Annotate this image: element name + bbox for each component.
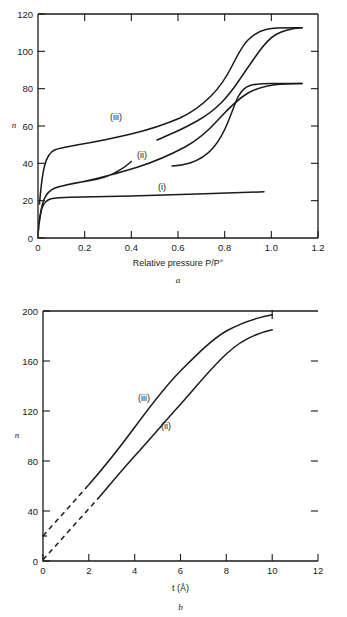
- panel-b-t-plots: 0 40 80 120 160 200 0 2 4 6 8 10 12 n t …: [0, 288, 347, 617]
- x-tick-label: 0.2: [78, 242, 91, 253]
- panel-a-x-ticks: [38, 14, 318, 238]
- x-tick-label: 10: [267, 565, 278, 576]
- y-tick-label: 80: [27, 456, 38, 467]
- x-tick-label: 4: [132, 565, 137, 576]
- panel-b-x-ticks: [43, 554, 318, 561]
- curve-ii-tplot: [98, 330, 272, 499]
- panel-a-y-ticks: [38, 14, 318, 238]
- x-tick-label: 8: [224, 565, 229, 576]
- panel-b-plot: 0 40 80 120 160 200 0 2 4 6 8 10 12 n t …: [0, 288, 347, 617]
- x-tick-label: 0.8: [218, 242, 231, 253]
- panel-a-plot: 0 20 40 60 80 100 120 0 0.2 0.4 0.6 0.8 …: [0, 0, 347, 288]
- y-tick-label: 160: [22, 356, 38, 367]
- curve-ii-extrapolation: [43, 499, 98, 560]
- y-tick-label: 60: [22, 121, 33, 132]
- panel-b-y-axis-title: n: [15, 430, 20, 440]
- panel-a-axes: [38, 14, 318, 238]
- y-tick-label: 0: [28, 233, 33, 244]
- y-tick-label: 40: [22, 158, 33, 169]
- y-tick-label: 20: [22, 195, 33, 206]
- panel-a-y-tick-labels: 0 20 40 60 80 100 120: [17, 9, 33, 244]
- y-tick-label: 120: [17, 9, 33, 20]
- x-tick-label: 0: [35, 242, 40, 253]
- panel-a-adsorption-isotherms: 0 20 40 60 80 100 120 0 0.2 0.4 0.6 0.8 …: [0, 0, 347, 288]
- panel-a-annotation-ii: (ii): [137, 150, 147, 160]
- y-tick-label: 100: [17, 46, 33, 57]
- panel-b-y-tick-labels: 0 40 80 120 160 200: [22, 306, 38, 567]
- panel-b-axes: [43, 311, 318, 561]
- curve-ii-adsorption: [39, 84, 302, 224]
- figure-container: 0 20 40 60 80 100 120 0 0.2 0.4 0.6 0.8 …: [0, 0, 347, 617]
- x-tick-label: 6: [178, 565, 183, 576]
- x-tick-label: 1.2: [311, 242, 324, 253]
- y-tick-label: 80: [22, 83, 33, 94]
- panel-b-letter: b: [178, 602, 183, 612]
- panel-a-annotation-iii: (iii): [110, 112, 122, 122]
- panel-a-x-tick-labels: 0 0.2 0.4 0.6 0.8 1.0 1.2: [35, 242, 324, 253]
- panel-b-annotation-iii: (iii): [138, 393, 150, 403]
- curve-iii-extrapolation: [43, 485, 89, 536]
- x-tick-label: 0.4: [125, 242, 138, 253]
- y-tick-label: 200: [22, 306, 38, 317]
- x-tick-label: 1.0: [265, 242, 278, 253]
- y-tick-label: 40: [27, 506, 38, 517]
- panel-a-y-axis-title: n: [12, 120, 17, 130]
- panel-a-x-axis-title: Relative pressure P/P°: [133, 258, 224, 268]
- curve-i-adsorption: [39, 192, 265, 231]
- y-tick-label: 0: [33, 556, 38, 567]
- panel-a-annotation-i: (i): [158, 182, 166, 192]
- x-tick-label: 0: [40, 565, 45, 576]
- panel-b-x-axis-title: t (Å): [172, 583, 189, 593]
- x-tick-label: 12: [313, 565, 324, 576]
- y-tick-label: 120: [22, 406, 38, 417]
- curve-iii-adsorption: [40, 28, 303, 204]
- x-tick-label: 2: [86, 565, 91, 576]
- panel-b-y-ticks: [43, 311, 318, 561]
- panel-a-letter: a: [176, 275, 181, 285]
- panel-b-annotation-ii: (ii): [161, 421, 171, 431]
- panel-b-x-tick-labels: 0 2 4 6 8 10 12: [40, 565, 323, 576]
- x-tick-label: 0.6: [171, 242, 184, 253]
